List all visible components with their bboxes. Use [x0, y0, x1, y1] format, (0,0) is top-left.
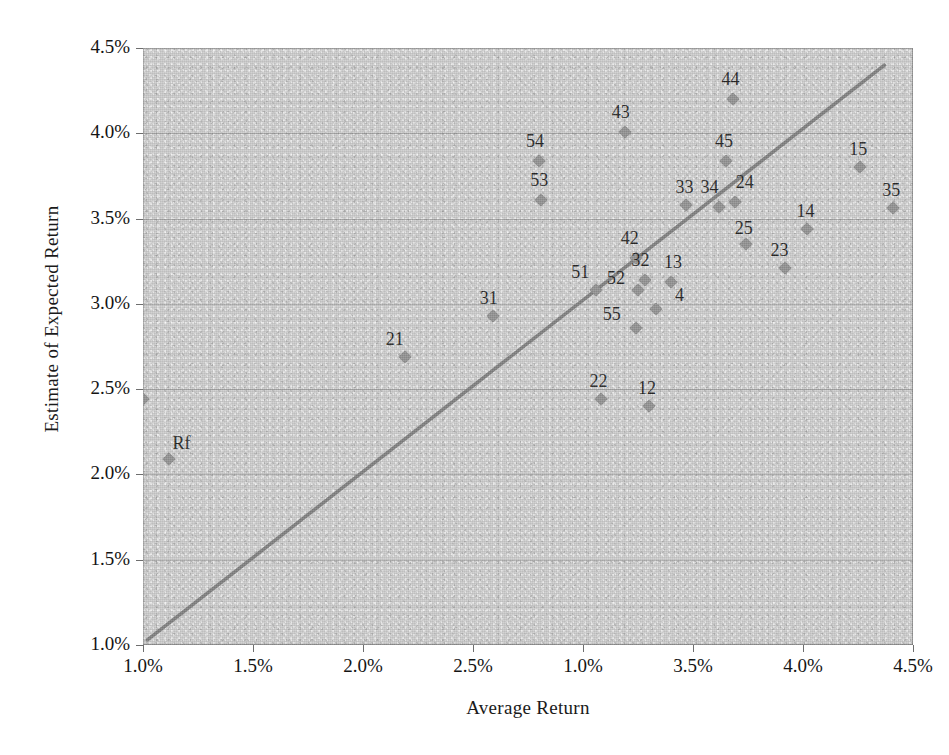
x-tick-mark — [803, 645, 804, 652]
data-point-label: 23 — [770, 241, 788, 259]
y-tick-mark — [136, 48, 143, 49]
y-tick-mark — [136, 133, 143, 134]
y-tick-label: 3.5% — [90, 207, 130, 229]
data-point-label: 51 — [571, 263, 589, 281]
y-tick-label: 4.5% — [90, 36, 130, 58]
data-point-label: 54 — [526, 132, 544, 150]
data-point-label: 31 — [480, 289, 498, 307]
x-tick-label: 1.0% — [533, 655, 633, 677]
scatter-chart-figure: Estimate of Expected Return Average Retu… — [0, 0, 949, 755]
data-point-label: 32 — [632, 251, 650, 269]
x-tick-mark — [473, 645, 474, 652]
y-tick-mark — [136, 304, 143, 305]
y-tick-label: 1.5% — [90, 548, 130, 570]
x-tick-mark — [583, 645, 584, 652]
x-tick-mark — [363, 645, 364, 652]
y-tick-mark — [136, 219, 143, 220]
data-point-label: 15 — [849, 140, 867, 158]
x-tick-label: 1.0% — [93, 655, 193, 677]
data-point-label: 13 — [664, 253, 682, 271]
data-point-label: 25 — [735, 219, 753, 237]
x-tick-mark — [913, 645, 914, 652]
data-point-label: 21 — [386, 330, 404, 348]
x-tick-label: 4.5% — [863, 655, 949, 677]
data-point-label: 42 — [621, 229, 639, 247]
x-tick-label: 1.5% — [203, 655, 303, 677]
x-tick-mark — [693, 645, 694, 652]
data-point-label: 45 — [715, 132, 733, 150]
data-point-label: 52 — [607, 269, 625, 287]
y-tick-mark — [136, 645, 143, 646]
data-point-label: 35 — [882, 181, 900, 199]
y-tick-mark — [136, 560, 143, 561]
x-tick-label: 2.5% — [423, 655, 523, 677]
y-tick-label: 3.0% — [90, 292, 130, 314]
y-tick-label: 1.0% — [90, 633, 130, 655]
y-tick-mark — [136, 389, 143, 390]
x-tick-mark — [253, 645, 254, 652]
y-tick-label: 2.0% — [90, 462, 130, 484]
x-tick-label: 2.0% — [313, 655, 413, 677]
data-point-label: 14 — [796, 202, 814, 220]
x-tick-label: 4.0% — [753, 655, 853, 677]
data-point-label: 55 — [603, 305, 621, 323]
plot-area: 11Rf213153544351524232135542212333445442… — [143, 48, 913, 645]
x-tick-mark — [143, 645, 144, 652]
data-point-label: Rf — [172, 434, 190, 452]
x-axis-title: Average Return — [143, 697, 913, 719]
data-point-label: 4 — [675, 286, 684, 304]
y-tick-label: 2.5% — [90, 377, 130, 399]
data-point-label: 43 — [612, 103, 630, 121]
data-point-label: 22 — [590, 372, 608, 390]
data-point-label: 44 — [722, 70, 740, 88]
data-point-label: 33 — [675, 178, 693, 196]
data-point-label: 12 — [638, 379, 656, 397]
y-tick-mark — [136, 474, 143, 475]
y-tick-label: 4.0% — [90, 121, 130, 143]
data-point-label: 24 — [736, 173, 754, 191]
x-tick-label: 3.5% — [643, 655, 743, 677]
data-point-label: 34 — [700, 178, 718, 196]
y-axis-title: Estimate of Expected Return — [41, 109, 63, 529]
data-point-label: 53 — [530, 171, 548, 189]
